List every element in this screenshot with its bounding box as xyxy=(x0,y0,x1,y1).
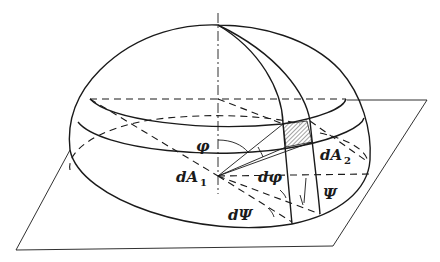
label-psi: Ψ xyxy=(323,185,338,203)
svg-text:dA: dA xyxy=(320,146,342,164)
hemisphere-diagram: φ dφ dΨ Ψ dA 1 dA 2 xyxy=(0,0,440,262)
label-d-psi: dΨ xyxy=(228,206,253,224)
svg-text:2: 2 xyxy=(344,155,351,166)
label-dA2: dA 2 xyxy=(320,146,351,166)
label-dA1: dA 1 xyxy=(176,168,207,188)
svg-text:dA: dA xyxy=(176,168,198,186)
svg-text:1: 1 xyxy=(200,177,207,188)
label-d-phi: dφ xyxy=(258,168,282,186)
label-phi: φ xyxy=(196,137,210,155)
